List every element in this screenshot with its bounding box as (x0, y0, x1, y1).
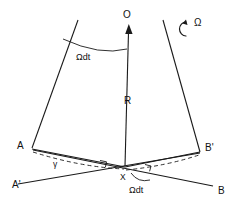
diagram-vector-layer (0, 0, 238, 218)
right-angle-mark-right (145, 165, 151, 172)
label-vertex-a: A (17, 141, 24, 151)
label-angle-omega-dt-top: Ωdt (76, 53, 90, 62)
dashed-arc-left (33, 152, 124, 169)
label-radius-r: R (124, 96, 131, 106)
label-apex-o: O (123, 10, 131, 20)
right-edge-line (163, 20, 200, 152)
diagram-canvas: O R Ωdt Ω A A' B' B X γ Ωdt (0, 0, 238, 218)
label-vertex-a-prime: A' (12, 180, 21, 190)
chord-a-to-x (32, 149, 125, 167)
label-center-x: X (120, 173, 126, 182)
angle-arc-top (63, 39, 127, 51)
label-vertex-b: B (218, 186, 225, 196)
label-rotation-omega: Ω (194, 18, 201, 28)
dashed-arc-right (126, 155, 199, 170)
radius-arrowhead-icon (125, 24, 132, 34)
label-angle-omega-dt-bottom: Ωdt (129, 186, 143, 195)
line-aprime-to-bprime (18, 153, 200, 184)
label-vertex-b-prime: B' (205, 143, 214, 153)
left-edge-line (32, 20, 78, 148)
angle-arc-bottom (131, 173, 150, 181)
label-gamma: γ (53, 160, 57, 169)
